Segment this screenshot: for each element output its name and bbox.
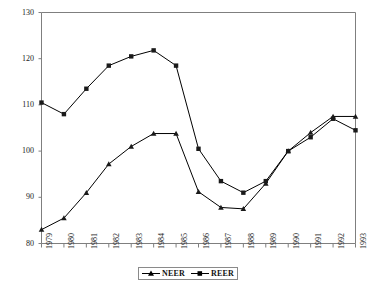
series-neer xyxy=(39,114,359,232)
legend-marker-triangle-icon xyxy=(142,269,160,278)
x-axis-tick-label: 1991 xyxy=(314,233,323,249)
axis-group xyxy=(39,13,356,248)
data-point-marker xyxy=(39,227,45,232)
data-point-marker xyxy=(286,149,290,153)
x-axis-tick-label: 1981 xyxy=(90,233,99,249)
data-point-marker xyxy=(219,179,223,183)
y-axis-tick-label: 100 xyxy=(8,146,34,155)
legend-entry-reer: REER xyxy=(191,269,234,278)
x-axis-tick-label: 1983 xyxy=(135,233,144,249)
data-point-marker xyxy=(264,179,268,183)
y-axis-tick-label: 110 xyxy=(8,100,34,109)
data-point-marker xyxy=(84,87,88,91)
series-group xyxy=(39,48,359,232)
series-line xyxy=(42,50,356,192)
data-point-marker xyxy=(308,135,312,139)
legend-entry-neer: NEER xyxy=(142,269,185,278)
x-axis-tick-label: 1985 xyxy=(180,233,189,249)
series-reer xyxy=(39,48,357,195)
x-axis-tick-label: 1990 xyxy=(292,233,301,249)
x-axis-tick-label: 1982 xyxy=(112,233,121,249)
series-line xyxy=(42,116,356,229)
x-axis-tick-label: 1988 xyxy=(247,233,256,249)
data-point-marker xyxy=(62,112,66,116)
y-axis-tick-label: 80 xyxy=(8,239,34,248)
data-point-marker xyxy=(331,117,335,121)
y-axis-tick-label: 90 xyxy=(8,192,34,201)
x-axis-tick-label: 1980 xyxy=(67,233,76,249)
data-point-marker xyxy=(241,190,245,194)
legend-label: NEER xyxy=(162,269,185,278)
legend-label: REER xyxy=(211,269,234,278)
data-point-marker xyxy=(308,130,314,135)
data-point-marker xyxy=(353,128,357,132)
x-axis-tick-label: 1986 xyxy=(202,233,211,249)
data-point-marker xyxy=(196,189,202,194)
data-point-marker xyxy=(196,147,200,151)
plot-frame xyxy=(42,13,356,244)
data-point-marker xyxy=(39,100,43,104)
data-point-marker xyxy=(107,63,111,67)
x-axis-tick-label: 1992 xyxy=(337,233,346,249)
x-axis-tick-label: 1984 xyxy=(157,233,166,249)
data-point-marker xyxy=(174,63,178,67)
legend-marker-square-icon xyxy=(191,269,209,278)
chart-legend: NEERREER xyxy=(138,267,238,280)
data-point-marker xyxy=(129,54,133,58)
x-axis-tick-label: 1989 xyxy=(269,233,278,249)
x-axis-tick-label: 1993 xyxy=(359,233,368,249)
data-point-marker xyxy=(151,48,155,52)
y-axis-tick-label: 120 xyxy=(8,54,34,63)
chart-container: 8090100110120130 19791980198119821983198… xyxy=(0,0,375,290)
x-axis-tick-label: 1987 xyxy=(224,233,233,249)
y-axis-tick-label: 130 xyxy=(8,8,34,17)
data-point-marker xyxy=(128,144,134,149)
x-axis-tick-label: 1979 xyxy=(45,233,54,249)
